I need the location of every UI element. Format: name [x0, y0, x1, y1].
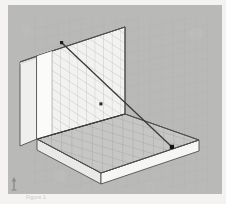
figure-caption: Figure 1 — [26, 194, 196, 200]
scale-marker — [12, 177, 17, 190]
node-floor-right — [170, 145, 174, 149]
node-wall-edge — [99, 102, 102, 105]
isometric-mesh-figure — [0, 0, 226, 204]
node-wall-top — [60, 41, 63, 44]
wall-plate-thickness — [20, 56, 37, 146]
figure-page: Figure 1 — [0, 0, 226, 204]
